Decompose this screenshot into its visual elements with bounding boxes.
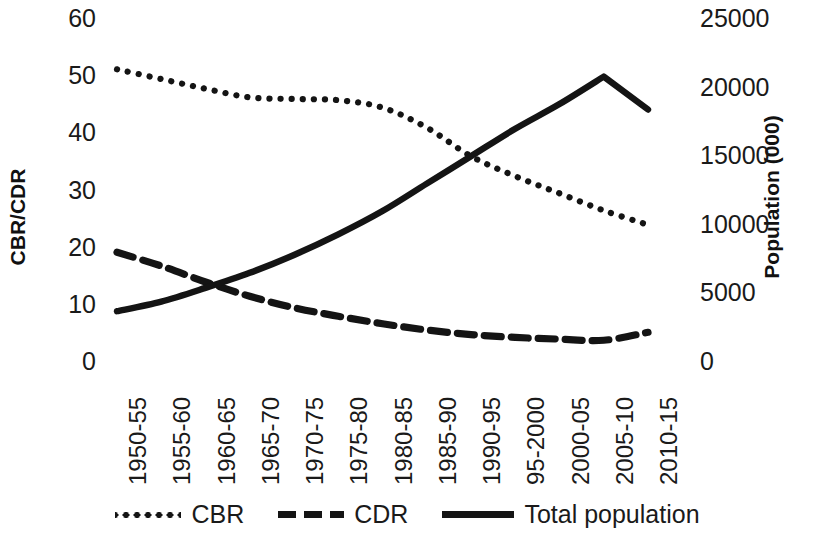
series-line-cdr [117, 252, 648, 340]
x-axis-tick-label: 1975-80 [347, 397, 371, 485]
x-axis-tick-label: 2000-05 [569, 397, 593, 485]
x-axis-tick-label: 95-2000 [524, 397, 548, 485]
y-axis-left-tick-label: 30 [26, 178, 96, 203]
x-axis-tick-label: 1990-95 [480, 397, 504, 485]
x-axis-tick-label: 1955-60 [170, 397, 194, 485]
x-axis-tick-label: 1950-55 [126, 397, 150, 485]
chart-legend: CBR CDR Total population [0, 500, 815, 529]
y-axis-left-tick-label: 20 [26, 235, 96, 260]
solid-line-icon [442, 511, 514, 518]
y-axis-right-tick-label: 25000 [700, 6, 810, 31]
legend-item-cdr: CDR [278, 500, 408, 529]
x-axis-tick-label: 1985-90 [436, 397, 460, 485]
y-axis-right-title: Population (000) [760, 107, 784, 287]
y-axis-left-tick-label: 10 [26, 292, 96, 317]
y-axis-right-tick-label: 5000 [700, 280, 810, 305]
x-axis-tick-label: 2005-10 [613, 397, 637, 485]
dotted-line-icon [115, 512, 181, 518]
x-axis-tick-label: 1965-70 [259, 397, 283, 485]
x-axis-tick-label: 1960-65 [215, 397, 239, 485]
dashed-line-icon [278, 511, 344, 518]
legend-label-cbr: CBR [191, 500, 244, 529]
chart-container: CBR/CDR Population (000) 6050403020100 2… [0, 0, 815, 543]
series-line-cbr [117, 69, 648, 224]
legend-item-cbr: CBR [115, 500, 244, 529]
x-axis-tick-label: 1980-85 [392, 397, 416, 485]
legend-item-total-population: Total population [442, 500, 699, 529]
legend-label-cdr: CDR [354, 500, 408, 529]
legend-label-total-population: Total population [524, 500, 699, 529]
y-axis-right-tick-label: 0 [700, 349, 810, 374]
x-axis-tick-label: 1970-75 [303, 397, 327, 485]
y-axis-right-tick-label: 10000 [700, 212, 810, 237]
y-axis-left-tick-label: 60 [26, 6, 96, 31]
series-line-total-population [117, 77, 648, 312]
y-axis-right-tick-label: 15000 [700, 143, 810, 168]
y-axis-left-title: CBR/CDR [6, 147, 30, 287]
y-axis-left-tick-label: 40 [26, 120, 96, 145]
y-axis-left-tick-label: 0 [26, 349, 96, 374]
x-axis-tick-label: 2010-15 [657, 397, 681, 485]
y-axis-left-tick-label: 50 [26, 63, 96, 88]
y-axis-right-tick-label: 20000 [700, 75, 810, 100]
